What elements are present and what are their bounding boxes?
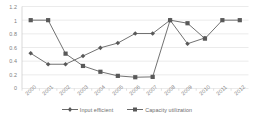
square-marker-icon bbox=[46, 18, 50, 22]
square-marker-icon bbox=[127, 106, 143, 113]
y-axis-tick-label: 0.2 bbox=[1, 72, 17, 78]
diamond-marker-icon bbox=[28, 51, 33, 56]
legend-label: Input efficient bbox=[80, 107, 113, 113]
diamond-marker-icon bbox=[46, 62, 51, 67]
square-marker-icon bbox=[168, 18, 172, 22]
legend-item-capacity-utilization[interactable]: Capacity utilization bbox=[127, 106, 192, 113]
diamond-marker-icon bbox=[133, 31, 138, 36]
square-marker-icon bbox=[238, 18, 242, 22]
square-marker-icon bbox=[185, 21, 189, 25]
chart-container: 1.2 1 0.8 0.6 0.4 0.2 0 2000200120022003… bbox=[0, 0, 254, 117]
y-axis-tick-label: 1 bbox=[1, 18, 17, 24]
diamond-marker-icon bbox=[81, 54, 86, 59]
square-marker-icon bbox=[98, 70, 102, 74]
series-layer bbox=[28, 18, 241, 79]
diamond-marker-icon bbox=[98, 46, 103, 51]
square-marker-icon bbox=[133, 75, 137, 79]
square-marker-icon bbox=[116, 74, 120, 78]
diamond-marker-icon bbox=[62, 106, 78, 113]
chart-legend: Input efficient Capacity utilization bbox=[0, 102, 254, 117]
legend-item-input-efficient[interactable]: Input efficient bbox=[62, 106, 113, 113]
y-axis-tick-label: 0.8 bbox=[1, 31, 17, 37]
series-line-1 bbox=[31, 20, 240, 77]
square-marker-icon bbox=[151, 75, 155, 79]
diamond-marker-icon bbox=[63, 62, 68, 67]
legend-label: Capacity utilization bbox=[145, 107, 192, 113]
y-axis-tick-label: 0.4 bbox=[1, 58, 17, 64]
y-axis-tick-label: 0 bbox=[1, 85, 17, 91]
y-axis-tick-label: 0.6 bbox=[1, 45, 17, 51]
square-marker-icon bbox=[203, 37, 207, 41]
plot-area bbox=[0, 0, 254, 117]
square-marker-icon bbox=[29, 18, 33, 22]
square-marker-icon bbox=[81, 64, 85, 68]
square-marker-icon bbox=[220, 18, 224, 22]
diamond-marker-icon bbox=[116, 41, 121, 46]
square-marker-icon bbox=[63, 52, 67, 56]
y-axis-tick-label: 1.2 bbox=[1, 4, 17, 10]
axis-lines bbox=[22, 7, 231, 91]
